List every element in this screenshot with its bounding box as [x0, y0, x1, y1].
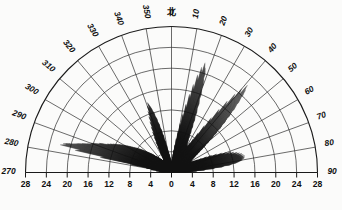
angular-tick-label: 290: [10, 107, 28, 122]
radial-tick-label: 8: [127, 179, 132, 189]
rose-diagram-figure: 2824201612840481216202428270280290300310…: [0, 0, 342, 210]
angular-tick-label: 350: [141, 4, 153, 20]
angular-tick-label: 60: [302, 83, 315, 96]
radial-tick-label: 12: [104, 179, 114, 189]
angular-tick-label: 330: [85, 21, 101, 38]
radial-tick-label: 24: [42, 179, 52, 189]
radial-tick-label: 16: [83, 179, 93, 189]
radial-tick-label: 20: [62, 179, 72, 189]
radial-tick-label: 28: [21, 179, 31, 189]
angular-tick-label: 340: [112, 10, 126, 27]
angular-tick-label: 10: [190, 8, 202, 19]
radial-tick-label: 12: [229, 179, 239, 189]
angular-tick-label: 300: [23, 81, 40, 97]
angular-tick-label: 320: [61, 37, 78, 54]
angular-tick-label: 80: [324, 137, 335, 149]
radial-tick-label: 28: [313, 179, 323, 189]
angular-tick-label: 40: [265, 41, 280, 56]
angular-tick-label: 310: [40, 57, 57, 74]
radial-tick-label: 16: [250, 179, 260, 189]
radial-tick-label: 0: [169, 179, 174, 189]
angular-tick-label: 70: [315, 109, 327, 122]
polar-plot-canvas: 2824201612840481216202428270280290300310…: [0, 0, 342, 210]
radial-tick-label: 8: [211, 179, 216, 189]
radial-tick-label: 20: [271, 179, 281, 189]
angular-tick-label: 20: [216, 14, 229, 27]
angular-tick-label: 50: [286, 60, 300, 74]
angular-tick-label: 30: [242, 25, 255, 38]
north-label: 北: [167, 6, 176, 17]
radial-tick-label: 4: [148, 179, 153, 189]
angular-tick-label: 270: [1, 166, 16, 176]
radial-tick-label: 24: [292, 179, 302, 189]
radial-tick-label: 4: [190, 179, 195, 189]
angular-tick-label: 90: [327, 166, 337, 176]
angular-tick-label: 280: [3, 136, 20, 149]
